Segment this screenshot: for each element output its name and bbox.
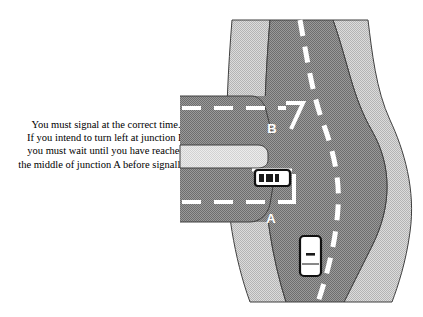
car-in-side-road: [255, 170, 290, 186]
car-in-side-road-window-rear: [259, 174, 264, 182]
illustration-page: You must signal at the correct time. If …: [0, 0, 423, 317]
junction-label-a: A: [266, 211, 276, 226]
car-on-main-road-body: [300, 236, 321, 276]
junction-label-b: B: [267, 121, 276, 136]
side-road-upper-b: [180, 96, 268, 148]
road-junction-diagram: B A: [0, 0, 423, 317]
car-in-side-road-window-mid: [266, 174, 273, 182]
car-in-side-road-window-front: [275, 174, 279, 182]
car-on-main-road: [300, 236, 321, 276]
car-on-main-road-window: [306, 253, 315, 256]
central-island: [180, 145, 268, 168]
